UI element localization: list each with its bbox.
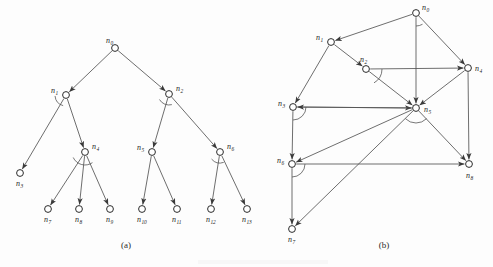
tree-node-subscript-n8: 8: [79, 219, 82, 225]
tree-node-label-n1: n1: [51, 86, 58, 96]
tree-node-label-n8: n8: [75, 215, 82, 225]
tree-node-n1[interactable]: n1: [51, 86, 69, 98]
graph-node-n1[interactable]: n1: [316, 33, 334, 45]
tree-node-n7[interactable]: n7: [44, 206, 51, 226]
graph-node-subscript-n4: 4: [479, 68, 482, 74]
angle-arc-n5: [405, 119, 426, 123]
edge-n2-to-n5: [153, 98, 168, 148]
graph-node-label-n7: n7: [288, 235, 295, 245]
graph-node-subscript-n3: 3: [281, 103, 285, 109]
tree-node-n5[interactable]: n5: [137, 143, 155, 155]
graph-node-subscript-n1: 1: [320, 37, 323, 43]
tree-node-subscript-n10: 10: [141, 219, 147, 225]
graph-edges-group: [292, 14, 469, 225]
tree-node-label-n0: n0: [106, 36, 113, 46]
tree-node-subscript-n13: 13: [246, 219, 252, 225]
tree-node-label-n9: n9: [106, 215, 113, 225]
angle-arc-n6: [212, 159, 224, 163]
graph-node-circle-n0[interactable]: [413, 10, 420, 17]
graph-node-subscript-n7: 7: [292, 239, 295, 245]
tree-node-n6[interactable]: n6: [217, 142, 235, 155]
tree-node-circle-n6[interactable]: [217, 149, 224, 156]
graph-node-circle-n4[interactable]: [465, 65, 472, 72]
graph-node-label-n0: n0: [422, 3, 429, 13]
graph-node-circle-n8[interactable]: [466, 161, 473, 168]
edge-n3-to-n6: [292, 111, 293, 159]
graph-node-n8[interactable]: n8: [466, 161, 474, 182]
edge-n4-to-n9: [87, 156, 108, 205]
graph-node-circle-n6[interactable]: [289, 161, 296, 168]
tree-node-circle-n12[interactable]: [208, 206, 215, 213]
angle-arc-n2: [159, 100, 171, 106]
graph-node-n5[interactable]: n5: [413, 105, 432, 116]
tree-node-label-n5: n5: [137, 143, 144, 153]
tree-node-circle-n2[interactable]: [166, 91, 173, 98]
edge-n1-to-n3: [22, 99, 64, 169]
tree-node-circle-n1[interactable]: [63, 92, 70, 99]
tree-node-subscript-n7: 7: [48, 219, 51, 225]
tree-node-n0[interactable]: n0: [106, 36, 118, 51]
tree-node-n10[interactable]: n10: [137, 206, 147, 226]
tree-node-n12[interactable]: n12: [206, 206, 216, 226]
graph-node-subscript-n2: 2: [364, 59, 367, 65]
tree-node-n13[interactable]: n13: [242, 206, 252, 226]
captions-group: (a)(b): [121, 240, 389, 250]
edge-n5-to-n6: [296, 110, 412, 162]
graph-node-circle-n2[interactable]: [363, 66, 370, 73]
graph-node-label-n8: n8: [466, 171, 473, 181]
edge-n5-to-n11: [154, 156, 175, 205]
tree-node-n4[interactable]: n4: [82, 142, 100, 155]
graph-node-circle-n3[interactable]: [290, 104, 297, 111]
angle-arc-n1: [55, 96, 63, 106]
tree-node-n8[interactable]: n8: [75, 206, 82, 226]
edge-n2-to-n4: [370, 68, 463, 69]
edge-n4-to-n5: [420, 71, 465, 106]
graph-node-circle-n1[interactable]: [328, 39, 335, 46]
tree-node-label-n12: n12: [206, 215, 216, 225]
tree-node-subscript-n1: 1: [55, 90, 58, 96]
graph-node-label-n1: n1: [316, 33, 323, 43]
tree-node-subscript-n11: 11: [176, 219, 181, 225]
edge-n1-to-n4: [67, 99, 83, 148]
edge-n5-to-n8: [419, 111, 466, 161]
graph-node-label-n5: n5: [424, 105, 431, 115]
edge-n4-to-n8: [79, 156, 84, 204]
tree-node-n3[interactable]: n3: [16, 170, 23, 190]
edge-n5-to-n7: [295, 111, 413, 226]
tree-node-circle-n7[interactable]: [45, 206, 52, 213]
angle-arc-n4: [73, 157, 92, 165]
tree-node-circle-n4[interactable]: [82, 149, 89, 156]
graph-node-n7[interactable]: n7: [288, 226, 295, 246]
caption-b: (b): [379, 240, 390, 250]
tree-node-label-n6: n6: [227, 142, 234, 152]
tree-node-circle-n3[interactable]: [17, 170, 24, 177]
graph-node-circle-n7[interactable]: [289, 226, 296, 233]
edge-n5-to-n10: [143, 156, 151, 204]
tree-node-subscript-n6: 6: [231, 146, 234, 152]
tree-node-subscript-n5: 5: [141, 147, 144, 153]
edge-n1-to-n3: [295, 46, 329, 103]
tree-node-circle-n13[interactable]: [244, 206, 251, 213]
tree-node-n9[interactable]: n9: [106, 206, 113, 226]
graph-node-n2[interactable]: n2: [360, 55, 369, 72]
graph-node-label-n2: n2: [360, 55, 367, 65]
graph-node-n6[interactable]: n6: [277, 156, 295, 167]
graph-node-n0[interactable]: n0: [413, 3, 430, 16]
tree-node-circle-n10[interactable]: [139, 206, 146, 213]
graph-node-n4[interactable]: n4: [465, 64, 483, 74]
tree-node-circle-n5[interactable]: [149, 149, 156, 156]
tree-node-subscript-n3: 3: [19, 183, 23, 189]
scan-artifact-bottom: [198, 260, 328, 264]
edge-n4-to-n8: [468, 72, 469, 159]
graph-node-circle-n5[interactable]: [413, 105, 420, 112]
tree-node-n2[interactable]: n2: [166, 84, 184, 97]
tree-node-label-n4: n4: [92, 142, 99, 152]
graph-node-n3[interactable]: n3: [278, 99, 296, 110]
tree-node-subscript-n0: 0: [110, 40, 113, 46]
tree-node-circle-n11[interactable]: [174, 206, 181, 213]
tree-node-circle-n8[interactable]: [76, 206, 83, 213]
tree-node-circle-n9[interactable]: [107, 206, 114, 213]
tree-node-n11[interactable]: n11: [172, 206, 182, 226]
graph-node-label-n4: n4: [475, 64, 482, 74]
figure-canvas: n0n1n2n3n4n5n6n7n8n9n10n11n12n13 n0n1n2n…: [0, 0, 493, 267]
